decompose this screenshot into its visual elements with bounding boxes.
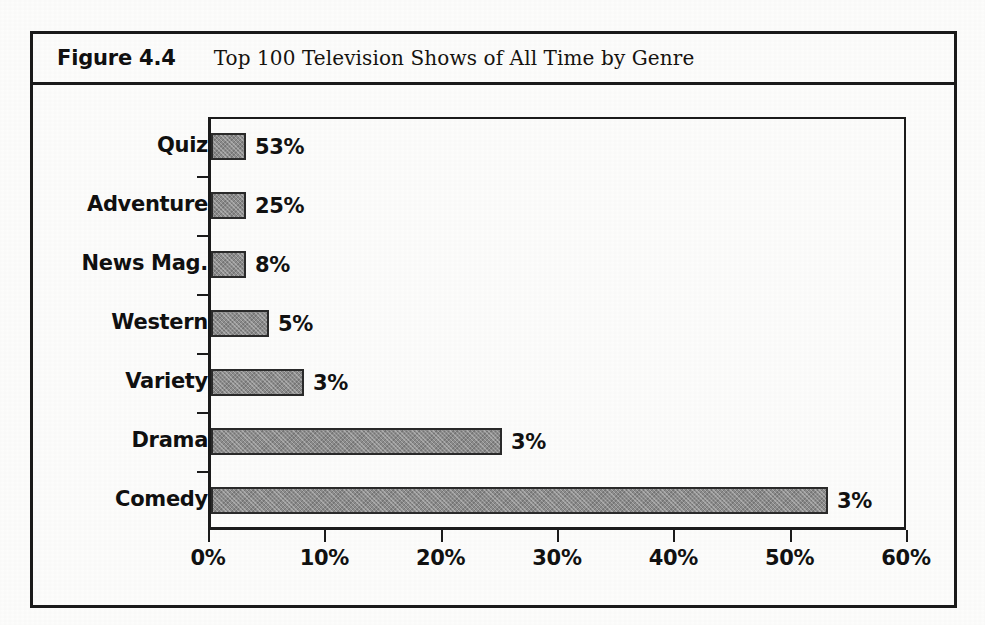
x-axis-tick-labels: 0%10%20%30%40%50%60% [208, 546, 908, 578]
y-axis-tick [197, 412, 209, 414]
x-axis-tick-label: 20% [416, 546, 465, 570]
y-axis-tick [197, 294, 209, 296]
bar-adventure [211, 192, 246, 219]
x-axis-tick [557, 530, 559, 542]
bar-value-label: 5% [278, 312, 313, 336]
bar-row: 3% [211, 353, 904, 412]
bar-western [211, 310, 269, 337]
y-axis-label-news-mag: News Mag. [28, 251, 208, 275]
figure-number-label: Figure 4.4 [57, 46, 176, 70]
figure-caption-bar: Figure 4.4 Top 100 Television Shows of A… [30, 31, 957, 85]
bar-news-mag [211, 251, 246, 278]
bar-row: 5% [211, 294, 904, 353]
plot-area: 53%25%8%5%3%3%3% [208, 117, 906, 530]
bar-row: 53% [211, 117, 904, 176]
bar-row: 25% [211, 176, 904, 235]
plot-right-border [904, 117, 906, 530]
y-axis-label-adventure: Adventure [28, 192, 208, 216]
x-axis-tick-label: 40% [649, 546, 698, 570]
bar-row: 3% [211, 471, 904, 530]
y-axis-label-western: Western [28, 310, 208, 334]
bar-value-label: 53% [255, 135, 304, 159]
figure-page: Figure 4.4 Top 100 Television Shows of A… [0, 0, 985, 625]
bar-drama [211, 428, 502, 455]
x-axis-tick-label: 30% [532, 546, 581, 570]
x-axis-tick [441, 530, 443, 542]
y-axis-category-labels: QuizAdventureNews Mag.WesternVarietyDram… [21, 117, 208, 530]
bar-value-label: 8% [255, 253, 290, 277]
x-axis-tick-label: 50% [765, 546, 814, 570]
x-axis-tick-label: 60% [881, 546, 930, 570]
x-axis-tick [906, 530, 908, 542]
x-axis-tick-label: 10% [300, 546, 349, 570]
x-axis-ticks [208, 530, 908, 544]
bar-quiz [211, 133, 246, 160]
x-axis-tick [673, 530, 675, 542]
y-axis-tick [197, 353, 209, 355]
bar-chart: QuizAdventureNews Mag.WesternVarietyDram… [33, 88, 954, 605]
y-axis-tick [197, 235, 209, 237]
bar-row: 3% [211, 412, 904, 471]
bar-value-label: 25% [255, 194, 304, 218]
x-axis-tick [790, 530, 792, 542]
bar-value-label: 3% [313, 371, 348, 395]
y-axis-label-variety: Variety [28, 369, 208, 393]
bar-comedy [211, 487, 828, 514]
y-axis-label-drama: Drama [28, 428, 208, 452]
bar-value-label: 3% [511, 430, 546, 454]
x-axis-tick-label: 0% [190, 546, 225, 570]
figure-title: Top 100 Television Shows of All Time by … [214, 46, 695, 70]
bar-value-label: 3% [837, 489, 872, 513]
bar-row: 8% [211, 235, 904, 294]
x-axis-tick [324, 530, 326, 542]
y-axis-tick [197, 176, 209, 178]
y-axis-label-quiz: Quiz [28, 133, 208, 157]
x-axis-tick [208, 530, 210, 542]
y-axis-label-comedy: Comedy [28, 487, 208, 511]
figure-bottom-rule [30, 605, 957, 608]
bar-variety [211, 369, 304, 396]
y-axis-tick [197, 471, 209, 473]
